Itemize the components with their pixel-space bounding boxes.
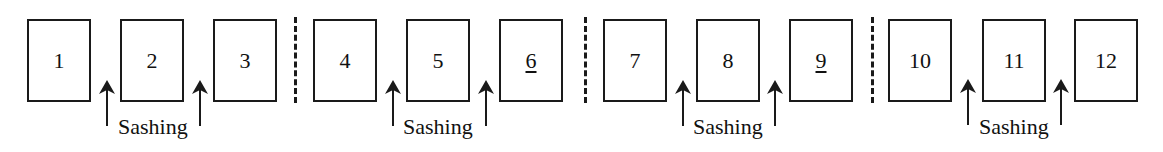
panel-11: 11 [982,19,1046,102]
arrow-up-icon [384,80,402,126]
group-divider [871,17,874,103]
panel-number: 2 [147,50,158,72]
panel-12: 12 [1074,19,1138,102]
panel-number: 3 [240,50,251,72]
sashing-label: Sashing [118,116,188,138]
panel-8: 8 [696,19,760,102]
arrow-up-icon [959,79,977,125]
group-divider [584,17,587,103]
panel-number: 6 [526,50,537,72]
panel-3: 3 [213,19,277,102]
panel-number: 12 [1095,50,1117,72]
panel-1: 1 [27,19,91,102]
panel-4: 4 [313,19,377,102]
panel-9: 9 [789,19,853,102]
panel-number: 11 [1003,50,1024,72]
panel-10: 10 [888,19,952,102]
panel-number: 4 [340,50,351,72]
panel-6: 6 [499,19,563,102]
sashing-label: Sashing [979,116,1049,138]
sashing-label: Sashing [693,116,763,138]
arrow-up-icon [98,80,116,126]
arrow-up-icon [477,80,495,126]
panel-number: 9 [816,50,827,72]
panel-number: 1 [54,50,65,72]
arrow-up-icon [674,80,692,126]
arrow-up-icon [766,80,784,126]
panel-2: 2 [120,19,184,102]
panel-number: 5 [433,50,444,72]
arrow-up-icon [191,80,209,126]
panel-number: 7 [630,50,641,72]
arrow-up-icon [1052,79,1070,125]
group-divider [294,17,297,103]
panel-7: 7 [603,19,667,102]
sashing-label: Sashing [403,116,473,138]
panel-number: 8 [723,50,734,72]
panel-number: 10 [909,50,931,72]
panel-5: 5 [406,19,470,102]
